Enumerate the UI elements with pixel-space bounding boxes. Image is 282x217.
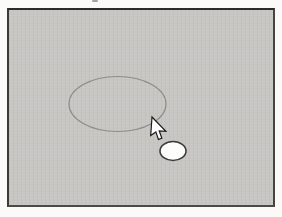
drawing-canvas[interactable] [7,8,275,207]
scan-artifact-mark [92,0,98,2]
small-oval-shape[interactable] [160,142,186,161]
figure-page [0,0,282,217]
